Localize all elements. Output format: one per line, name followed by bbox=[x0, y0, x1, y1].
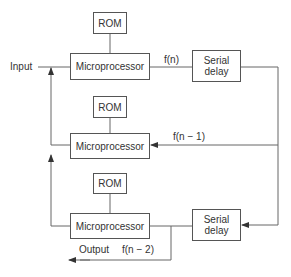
signal-label-fn-1: f(n − 1) bbox=[173, 131, 205, 142]
rom-box-1: ROM bbox=[93, 12, 127, 34]
microprocessor-box-1: Microprocessor bbox=[70, 53, 150, 80]
input-label: Input bbox=[10, 61, 32, 72]
rom-box-2: ROM bbox=[93, 96, 127, 118]
delay-label-line2: delay bbox=[205, 225, 229, 236]
microprocessor-label: Microprocessor bbox=[76, 61, 144, 72]
microprocessor-label: Microprocessor bbox=[76, 221, 144, 232]
signal-label-fn: f(n) bbox=[164, 54, 179, 65]
rom-label: ROM bbox=[98, 102, 121, 113]
serial-delay-box-2: Serial delay bbox=[192, 209, 241, 241]
delay-label-line2: delay bbox=[205, 66, 229, 77]
delay-label-line1: Serial bbox=[204, 55, 230, 66]
rom-label: ROM bbox=[98, 18, 121, 29]
microprocessor-box-3: Microprocessor bbox=[70, 213, 150, 239]
microprocessor-label: Microprocessor bbox=[76, 141, 144, 152]
serial-delay-box-1: Serial delay bbox=[192, 50, 241, 82]
microprocessor-box-2: Microprocessor bbox=[70, 133, 150, 159]
signal-label-fn-2: f(n − 2) bbox=[122, 244, 154, 255]
delay-label-line1: Serial bbox=[204, 214, 230, 225]
output-label: Output bbox=[79, 244, 109, 255]
rom-label: ROM bbox=[98, 178, 121, 189]
rom-box-3: ROM bbox=[93, 173, 127, 194]
